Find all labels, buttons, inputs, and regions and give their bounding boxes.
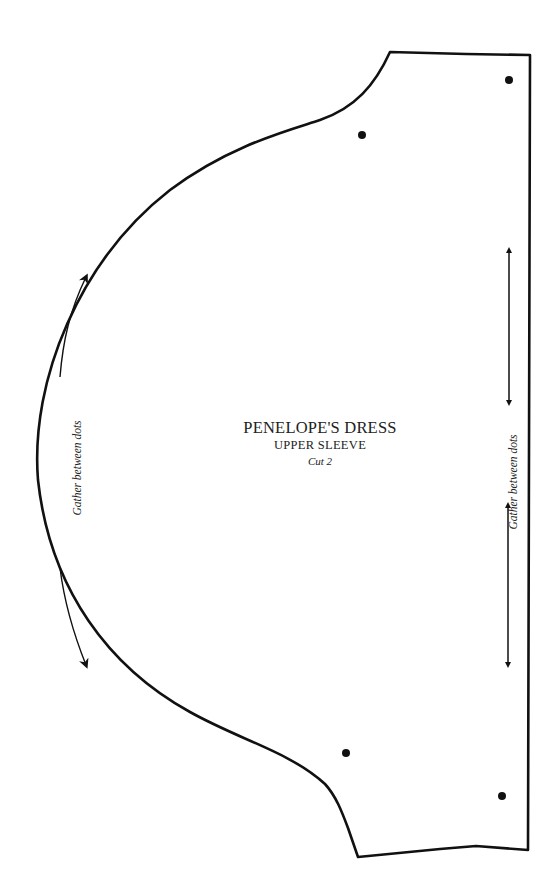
notch-dot-bottom-left — [342, 749, 350, 757]
cut-instruction: Cut 2 — [200, 455, 440, 467]
notch-dot-top-right — [505, 76, 513, 84]
pattern-title: PENELOPE'S DRESS — [200, 418, 440, 438]
gather-arrow-left-down — [60, 568, 86, 665]
pattern-piece-name: UPPER SLEEVE — [200, 438, 440, 453]
notch-dot-top-left — [358, 131, 366, 139]
left-gather-label: Gather between dots — [71, 403, 83, 533]
sewing-pattern-canvas: PENELOPE'S DRESS UPPER SLEEVE Cut 2 Gath… — [0, 0, 559, 879]
right-gather-label: Gather between dots — [507, 417, 519, 547]
notch-dot-bottom-right — [498, 792, 506, 800]
